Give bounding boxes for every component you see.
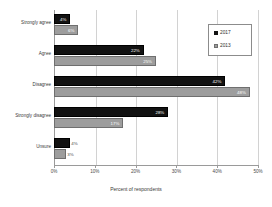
x-tick-label: 10% — [90, 169, 99, 174]
category-row: Unsure4%3% — [0, 134, 272, 165]
legend-label: 2017 — [220, 31, 231, 36]
bar-2013[interactable]: 17% — [54, 118, 123, 128]
bar-value-label: 25% — [143, 57, 152, 67]
x-axis-line — [54, 165, 258, 166]
bar-value-label: 4% — [71, 139, 77, 149]
legend-item-2017[interactable]: 2017 — [214, 31, 231, 36]
x-tick-mark — [176, 165, 177, 168]
bar-value-label: 3% — [67, 150, 73, 160]
category-label: Agree — [0, 52, 51, 57]
bar-2013[interactable]: 3% — [54, 149, 66, 159]
x-tick-label: 50% — [253, 169, 262, 174]
legend-label: 2013 — [220, 44, 231, 49]
category-label: Strongly disagree — [0, 114, 51, 119]
bar-group: 42%48% — [54, 72, 258, 103]
bar-2017[interactable]: 42% — [54, 76, 225, 86]
legend-swatch-icon — [214, 44, 218, 48]
x-tick-mark — [95, 165, 96, 168]
x-tick-mark — [258, 165, 259, 168]
x-tick-mark — [217, 165, 218, 168]
bar-2017[interactable]: 22% — [54, 45, 144, 55]
legend: 2017 2013 — [208, 24, 252, 56]
bar-chart: Strongly agree4%6%Agree22%25%Disagree42%… — [0, 0, 272, 207]
x-tick-label: 20% — [131, 169, 140, 174]
bar-value-label: 28% — [155, 108, 164, 118]
x-tick-label: 0% — [51, 169, 58, 174]
x-tick-label: 30% — [172, 169, 181, 174]
bar-2013[interactable]: 25% — [54, 56, 156, 66]
bar-value-label: 48% — [237, 88, 246, 98]
bar-group: 4%3% — [54, 134, 258, 165]
legend-swatch-icon — [214, 31, 218, 35]
bar-2013[interactable]: 6% — [54, 25, 78, 35]
x-tick-label: 40% — [213, 169, 222, 174]
x-tick-mark — [54, 165, 55, 168]
bar-2017[interactable]: 28% — [54, 107, 168, 117]
bar-value-label: 4% — [60, 15, 66, 25]
bar-value-label: 22% — [131, 46, 140, 56]
legend-item-2013[interactable]: 2013 — [214, 44, 231, 49]
bar-value-label: 17% — [111, 119, 120, 129]
category-label: Strongly agree — [0, 21, 51, 26]
category-row: Strongly disagree28%17% — [0, 103, 272, 134]
bar-2017[interactable]: 4% — [54, 138, 70, 148]
bar-group: 28%17% — [54, 103, 258, 134]
category-label: Unsure — [0, 145, 51, 150]
x-tick-mark — [136, 165, 137, 168]
category-row: Disagree42%48% — [0, 72, 272, 103]
bar-value-label: 6% — [68, 26, 74, 36]
bar-2017[interactable]: 4% — [54, 14, 70, 24]
bar-2013[interactable]: 48% — [54, 87, 250, 97]
category-label: Disagree — [0, 83, 51, 88]
bar-value-label: 42% — [213, 77, 222, 87]
x-axis-title: Percent of respondents — [0, 186, 272, 192]
